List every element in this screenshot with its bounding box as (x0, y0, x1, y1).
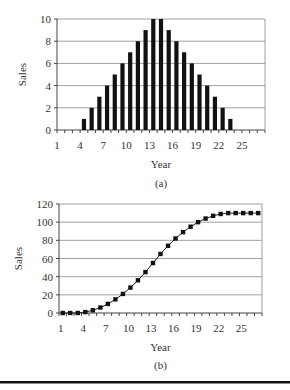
bar (90, 108, 94, 130)
x-tick-label: 1 (54, 139, 60, 151)
y-tick-label: 6 (46, 57, 52, 69)
y-tick-label: 40 (42, 271, 54, 283)
data-point-marker (91, 308, 95, 312)
y-tick-label: 60 (42, 253, 54, 265)
bar (213, 97, 217, 130)
data-point-marker (166, 244, 170, 248)
figure-caption: (a) (155, 177, 168, 190)
data-point-marker (113, 297, 117, 301)
y-tick-label: 20 (42, 289, 54, 301)
x-tick-label: 10 (121, 139, 133, 151)
x-axis-title: Year (150, 341, 171, 353)
y-tick-label: 10 (40, 13, 52, 25)
bar-chart-annual-sales: 0246810147101316192225YearSales(a) (16, 13, 265, 190)
bar (120, 63, 124, 130)
bar (159, 19, 163, 130)
y-axis-title: Sales (16, 63, 28, 86)
figure: 0246810147101316192225YearSales(a) 02040… (0, 0, 290, 390)
bar (128, 52, 132, 130)
data-point-marker (196, 220, 200, 224)
x-tick-label: 25 (236, 322, 248, 334)
bar (174, 41, 178, 130)
y-tick-label: 0 (48, 307, 54, 319)
x-tick-label: 19 (190, 139, 202, 151)
y-axis-title: Sales (12, 247, 24, 270)
data-point-marker (233, 211, 237, 215)
x-tick-label: 4 (81, 322, 87, 334)
y-tick-label: 100 (37, 216, 54, 228)
bar (82, 119, 86, 130)
data-point-marker (143, 270, 147, 274)
data-point-marker (61, 311, 65, 315)
x-tick-label: 1 (58, 322, 64, 334)
line-chart-cumulative-sales: 020406080100120147101316192225YearSales(… (12, 198, 262, 372)
bar (221, 108, 225, 130)
data-point-marker (121, 292, 125, 296)
bar (97, 97, 101, 130)
bar (105, 86, 109, 130)
data-point-marker (68, 311, 72, 315)
data-line (63, 213, 258, 313)
bar (182, 52, 186, 130)
bar (136, 41, 140, 130)
y-tick-label: 2 (46, 102, 52, 114)
data-point-marker (188, 225, 192, 229)
data-point-marker (83, 310, 87, 314)
data-point-marker (106, 302, 110, 306)
bottom-rule (0, 381, 290, 384)
data-point-marker (218, 212, 222, 216)
bar (167, 30, 171, 130)
data-point-marker (241, 211, 245, 215)
data-point-marker (128, 285, 132, 289)
y-tick-label: 0 (46, 124, 52, 136)
y-tick-label: 8 (46, 35, 52, 47)
bar (143, 30, 147, 130)
data-point-marker (98, 305, 102, 309)
x-tick-label: 22 (213, 139, 224, 151)
x-tick-label: 13 (144, 139, 156, 151)
y-tick-label: 120 (37, 198, 54, 210)
data-point-marker (76, 311, 80, 315)
data-point-marker (158, 252, 162, 256)
data-point-marker (226, 211, 230, 215)
x-tick-label: 10 (123, 322, 135, 334)
data-point-marker (203, 216, 207, 220)
data-point-marker (136, 278, 140, 282)
data-point-marker (181, 230, 185, 234)
data-point-marker (211, 214, 215, 218)
bar (113, 75, 117, 131)
bar (197, 75, 201, 131)
x-axis-title: Year (151, 158, 172, 170)
bar (228, 119, 232, 130)
x-tick-label: 16 (167, 139, 179, 151)
data-point-marker (151, 261, 155, 265)
bar (151, 19, 155, 130)
data-point-marker (249, 211, 253, 215)
x-tick-label: 22 (213, 322, 224, 334)
x-tick-label: 13 (145, 322, 157, 334)
bar (205, 86, 209, 130)
x-tick-label: 7 (100, 139, 106, 151)
data-point-marker (256, 211, 260, 215)
y-tick-label: 80 (42, 234, 54, 246)
x-tick-label: 7 (103, 322, 109, 334)
data-point-marker (173, 236, 177, 240)
figure-caption: (b) (154, 359, 167, 372)
x-tick-label: 19 (191, 322, 203, 334)
x-tick-label: 16 (168, 322, 180, 334)
x-tick-label: 4 (77, 139, 83, 151)
bar (190, 63, 194, 130)
y-tick-label: 4 (46, 80, 52, 92)
x-tick-label: 25 (236, 139, 248, 151)
